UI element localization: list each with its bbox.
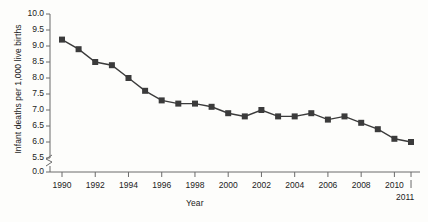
data-point-marker bbox=[159, 97, 165, 103]
data-point-marker bbox=[292, 113, 298, 119]
data-point-marker bbox=[142, 88, 148, 94]
axis-lines bbox=[46, 14, 420, 188]
data-point-marker bbox=[225, 110, 231, 116]
data-point-marker bbox=[408, 139, 414, 145]
data-point-marker bbox=[242, 113, 248, 119]
chart-figure: Infant deaths per 1,000 live births Year… bbox=[0, 0, 428, 222]
data-point-marker bbox=[342, 113, 348, 119]
data-point-marker bbox=[375, 126, 381, 132]
data-series-line bbox=[59, 37, 414, 145]
data-point-marker bbox=[325, 117, 331, 123]
plot-area bbox=[0, 0, 428, 222]
data-point-marker bbox=[258, 107, 264, 113]
data-point-marker bbox=[209, 104, 215, 110]
data-point-marker bbox=[358, 120, 364, 126]
data-point-marker bbox=[192, 101, 198, 107]
data-point-marker bbox=[308, 110, 314, 116]
data-point-marker bbox=[175, 101, 181, 107]
data-point-marker bbox=[275, 113, 281, 119]
data-point-marker bbox=[391, 136, 397, 142]
data-point-marker bbox=[76, 46, 82, 52]
data-point-marker bbox=[59, 37, 65, 43]
data-point-marker bbox=[92, 59, 98, 65]
data-point-marker bbox=[126, 75, 132, 81]
data-point-marker bbox=[109, 62, 115, 68]
